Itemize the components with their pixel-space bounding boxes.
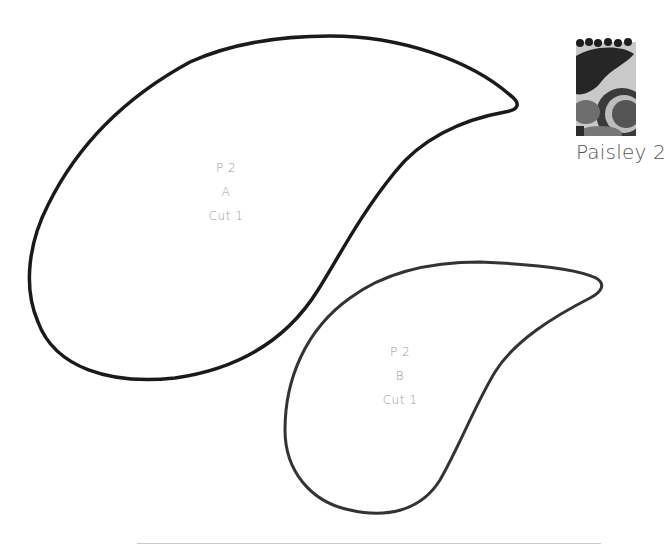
pattern-title: Paisley 2 [576,140,666,164]
piece-b-pattern-number: P 2 [350,340,450,364]
fabric-swatch-image [576,34,636,136]
piece-b-letter: B [350,364,450,388]
piece-b-cut-count: Cut 1 [350,388,450,412]
piece-a-letter: A [176,180,276,204]
piece-b-label: P 2 B Cut 1 [350,340,450,412]
piece-a-pattern-number: P 2 [176,156,276,180]
piece-a-label: P 2 A Cut 1 [176,156,276,228]
footer-divider [137,543,601,544]
piece-a-cut-count: Cut 1 [176,204,276,228]
fabric-thumbnail [576,34,636,136]
